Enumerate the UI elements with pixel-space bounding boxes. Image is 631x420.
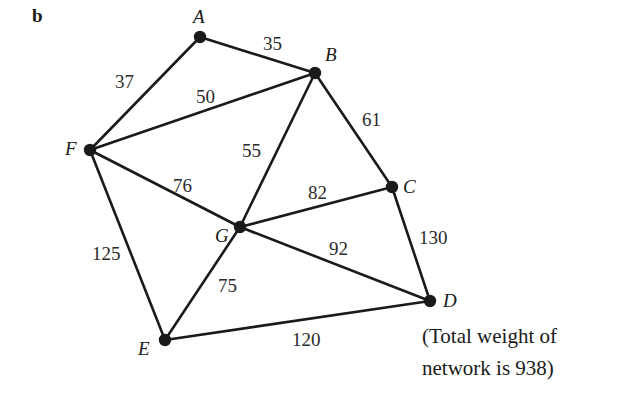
edges-group (90, 37, 430, 340)
edge-weight-e-d: 120 (292, 330, 321, 349)
node-label-b: B (325, 45, 337, 64)
node-g (234, 221, 246, 233)
edge-b-c (315, 73, 392, 187)
edge-weight-g-e: 75 (218, 276, 237, 295)
node-b (309, 67, 321, 79)
edge-weight-g-c: 82 (308, 183, 327, 202)
caption-line-1: (Total weight of (422, 323, 557, 351)
edge-a-b (200, 37, 315, 73)
edge-a-f (90, 37, 200, 150)
node-label-f: F (65, 139, 77, 158)
node-label-e: E (138, 339, 150, 358)
edge-weight-b-c: 61 (362, 110, 381, 129)
node-label-d: D (443, 291, 457, 310)
edge-weight-b-g: 55 (242, 141, 261, 160)
figure-panel: b ABCDEFG 353750556176821309275125120 (T… (0, 0, 631, 420)
edge-weight-a-f: 37 (115, 72, 134, 91)
edge-weight-f-b: 50 (196, 87, 215, 106)
edge-f-g (90, 150, 240, 227)
edge-weight-a-b: 35 (263, 34, 282, 53)
edge-weight-g-d: 92 (329, 239, 348, 258)
node-label-c: C (403, 177, 416, 196)
edge-weight-f-e: 125 (92, 244, 121, 263)
panel-letter: b (32, 6, 43, 25)
node-f (84, 144, 96, 156)
node-label-g: G (215, 226, 229, 245)
node-e (159, 334, 171, 346)
edge-weight-f-g: 76 (173, 176, 192, 195)
edge-weight-c-d: 130 (419, 228, 448, 247)
node-c (386, 181, 398, 193)
node-d (424, 295, 436, 307)
caption-line-2: network is 938) (422, 355, 554, 383)
node-label-a: A (193, 7, 205, 26)
node-a (194, 31, 206, 43)
